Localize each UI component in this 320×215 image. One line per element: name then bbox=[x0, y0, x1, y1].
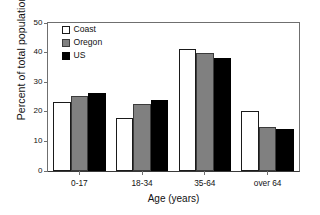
legend-label-coast: Coast bbox=[74, 25, 96, 35]
x-tick-label: 0-17 bbox=[71, 178, 88, 188]
x-tick-label: 18-34 bbox=[132, 178, 153, 188]
legend-item-oregon: Oregon bbox=[62, 38, 102, 48]
bar-us bbox=[214, 58, 232, 171]
y-tick-label: 0 bbox=[38, 166, 45, 175]
bar-coast bbox=[53, 102, 71, 171]
legend-item-coast: Coast bbox=[62, 25, 102, 35]
y-tick-label: 10 bbox=[34, 136, 46, 145]
y-tick-label: 50 bbox=[34, 18, 46, 27]
legend-swatch-us bbox=[62, 52, 70, 60]
x-axis-title: Age (years) bbox=[47, 193, 300, 204]
bar-oregon bbox=[71, 96, 89, 171]
bar-coast bbox=[241, 111, 259, 171]
bar-group bbox=[116, 23, 169, 171]
y-tick-label: 30 bbox=[34, 77, 46, 86]
chart-legend: Coast Oregon US bbox=[62, 25, 102, 64]
y-tick-label: 20 bbox=[34, 106, 46, 115]
bar-us bbox=[276, 129, 294, 171]
y-tick-label: 40 bbox=[34, 47, 46, 56]
bar-us bbox=[88, 93, 106, 171]
bar-group bbox=[179, 23, 232, 171]
x-tick-mark bbox=[267, 171, 268, 175]
legend-swatch-coast bbox=[62, 26, 70, 34]
x-tick-label: over 64 bbox=[254, 178, 282, 188]
x-tick-mark bbox=[79, 171, 80, 175]
bar-oregon bbox=[133, 104, 151, 171]
x-tick-mark bbox=[142, 171, 143, 175]
legend-swatch-oregon bbox=[62, 39, 70, 47]
bar-oregon bbox=[196, 53, 214, 171]
x-tick-mark bbox=[204, 171, 205, 175]
y-axis-title: Percent of total population bbox=[15, 0, 27, 133]
bar-coast bbox=[179, 49, 197, 171]
legend-label-us: US bbox=[74, 51, 86, 61]
bar-oregon bbox=[259, 127, 277, 171]
legend-label-oregon: Oregon bbox=[74, 38, 103, 48]
legend-item-us: US bbox=[62, 51, 102, 61]
bar-chart-figure: Percent of total population 010203040500… bbox=[0, 0, 320, 215]
x-tick-label: 35-64 bbox=[194, 178, 215, 188]
bar-group bbox=[241, 23, 294, 171]
bar-us bbox=[151, 100, 169, 171]
bar-coast bbox=[116, 118, 134, 171]
